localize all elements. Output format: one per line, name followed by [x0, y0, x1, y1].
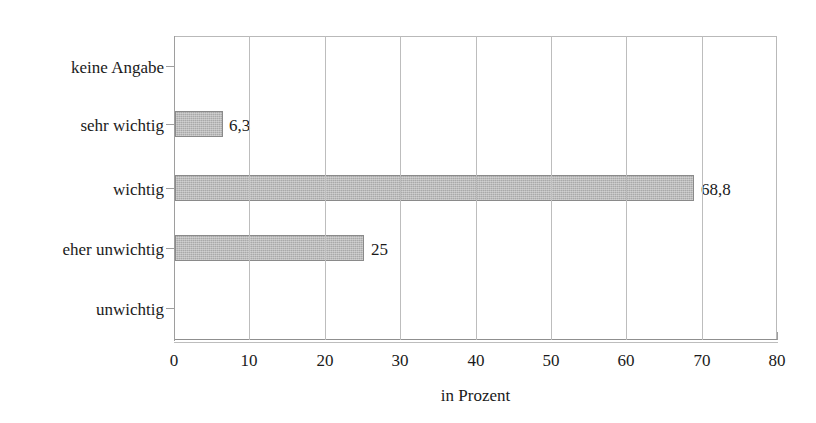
- gridline-50: [551, 36, 552, 340]
- x-axis-line-secondary: [174, 342, 778, 343]
- y-tick-sehr-wichtig: [166, 124, 175, 125]
- x-tick-label-50: 50: [521, 352, 581, 369]
- y-tick-eher-unwichtig: [166, 248, 175, 249]
- bar-chart: keine Angabe sehr wichtig wichtig eher u…: [0, 0, 816, 423]
- x-tick-label-70: 70: [672, 352, 732, 369]
- x-tick-0: [174, 332, 175, 340]
- x-tick-label-40: 40: [446, 352, 506, 369]
- x-tick-label-80: 80: [747, 352, 807, 369]
- bar-wichtig: [175, 175, 694, 201]
- value-label-eher-unwichtig: 25: [371, 241, 388, 258]
- y-tick-keine-angabe: [166, 66, 175, 67]
- category-label-wichtig: wichtig: [4, 181, 164, 198]
- x-tick-label-60: 60: [596, 352, 656, 369]
- value-label-sehr-wichtig: 6,3: [229, 117, 250, 134]
- category-label-sehr-wichtig: sehr wichtig: [4, 117, 164, 134]
- x-tick-label-10: 10: [219, 352, 279, 369]
- x-tick-label-0: 0: [144, 352, 204, 369]
- gridline-60: [626, 36, 627, 340]
- gridline-30: [400, 36, 401, 340]
- x-tick-label-30: 30: [370, 352, 430, 369]
- gridline-10: [249, 36, 250, 340]
- category-label-eher-unwichtig: eher unwichtig: [4, 241, 164, 258]
- bar-eher-unwichtig: [175, 235, 364, 261]
- bar-sehr-wichtig: [175, 111, 223, 137]
- y-tick-wichtig: [166, 188, 175, 189]
- gridline-40: [476, 36, 477, 340]
- y-tick-unwichtig: [166, 308, 175, 309]
- x-tick-80: [777, 332, 778, 340]
- x-axis-title: in Prozent: [174, 387, 777, 404]
- gridline-70: [702, 36, 703, 340]
- category-labels: keine Angabe sehr wichtig wichtig eher u…: [0, 0, 164, 423]
- category-label-keine-angabe: keine Angabe: [4, 59, 164, 76]
- value-label-wichtig: 68,8: [701, 181, 731, 198]
- gridline-20: [325, 36, 326, 340]
- category-label-unwichtig: unwichtig: [4, 301, 164, 318]
- x-tick-label-20: 20: [295, 352, 355, 369]
